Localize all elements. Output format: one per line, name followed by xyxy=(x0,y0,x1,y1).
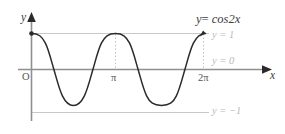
x-axis-label: x xyxy=(270,70,275,82)
function-title-rhs: cos2x xyxy=(212,12,240,26)
xtick-label-2pi: 2π xyxy=(198,73,209,84)
function-title: y= cos2x xyxy=(196,13,240,26)
label-y-equals-1: y = 1 xyxy=(212,30,234,41)
label-y-equals-0: y = 0 xyxy=(212,56,234,67)
xtick-label-pi: π xyxy=(111,73,116,84)
y-axis-label: y xyxy=(21,12,26,24)
start-point-marker xyxy=(29,31,34,36)
origin-label: O xyxy=(22,72,30,83)
cosine-graph-figure: y= cos2x y = 1 y = 0 y = −1 y x O π 2π xyxy=(0,0,285,134)
function-title-eq: = xyxy=(202,12,209,26)
label-y-equals-minus-1: y = −1 xyxy=(212,106,241,117)
plot-canvas xyxy=(0,0,285,134)
y-axis-arrowhead xyxy=(27,12,36,22)
